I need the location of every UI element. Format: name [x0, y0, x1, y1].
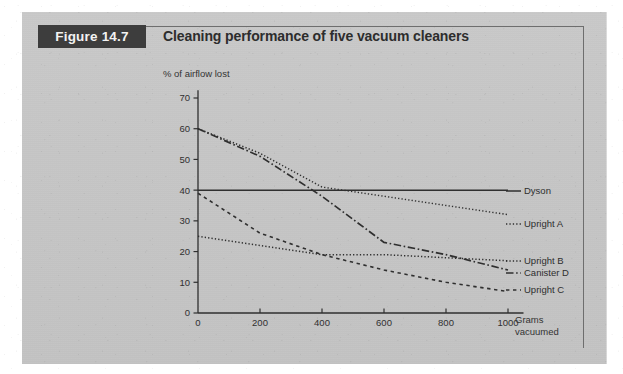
- x-axis-tick-label: 1000: [497, 317, 518, 328]
- y-axis-tick-label: 40: [179, 185, 190, 196]
- legend-label-upright-c: Upright C: [524, 284, 564, 295]
- legend-label-dyson: Dyson: [524, 185, 551, 196]
- y-axis-tick-label: 70: [179, 92, 190, 103]
- y-axis-tick-label: 0: [185, 307, 190, 318]
- y-axis-tick-label: 50: [179, 154, 190, 165]
- legend-label-canister-d: Canister D: [524, 267, 569, 278]
- x-axis-tick-label: 400: [314, 317, 330, 328]
- legend-label-upright-a: Upright A: [524, 218, 563, 229]
- axis-group: 01020304050607002004006008001000: [179, 90, 523, 328]
- series-line-upright-a: [198, 129, 508, 215]
- series-line-upright-c: [198, 193, 508, 291]
- x-axis-tick-label: 200: [252, 317, 268, 328]
- data-series-group: [198, 129, 521, 292]
- scanned-page: Figure 14.7 Cleaning performance of five…: [0, 0, 623, 374]
- x-axis-tick-label: 600: [376, 317, 392, 328]
- series-line-canister-d: [198, 129, 508, 270]
- y-axis-tick-label: 60: [179, 123, 190, 134]
- x-axis-tick-label: 800: [438, 317, 454, 328]
- series-line-upright-b: [198, 236, 508, 261]
- x-axis-tick-label: 0: [195, 317, 200, 328]
- y-axis-tick-label: 10: [179, 277, 190, 288]
- legend-label-upright-b: Upright B: [524, 255, 564, 266]
- y-axis-tick-label: 30: [179, 215, 190, 226]
- y-axis-tick-label: 20: [179, 246, 190, 257]
